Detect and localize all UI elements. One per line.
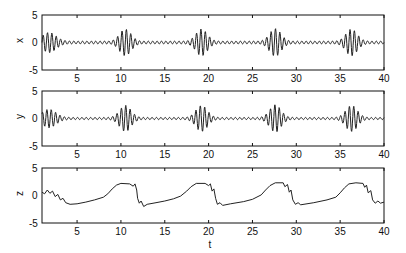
xtick-label: 20 [203, 149, 215, 160]
ylabel-y: y [14, 114, 25, 119]
xtick-label: 5 [74, 226, 80, 237]
ytick-0: 0 [32, 190, 38, 201]
series-z [42, 183, 384, 207]
ylabel-z: z [14, 191, 25, 196]
figure: x 5 0 -5 510152025303540 y 5 0 -5 510152… [0, 0, 406, 253]
xtick-label: 40 [378, 226, 390, 237]
xtick-label: 30 [291, 73, 303, 84]
ytick-5: 5 [32, 10, 38, 21]
ytick-0: 0 [32, 37, 38, 48]
xtick-label: 5 [74, 73, 80, 84]
series-x [42, 29, 384, 56]
xtick-label: 15 [159, 73, 171, 84]
xticks-z: 510152025303540 [74, 168, 390, 237]
xtick-label: 30 [291, 226, 303, 237]
panel-z: z 5 0 -5 510152025303540 t [14, 163, 390, 250]
panel-x: x 5 0 -5 510152025303540 [14, 10, 390, 84]
xtick-label: 15 [159, 149, 171, 160]
axes-box-z [42, 168, 384, 223]
panel-y: y 5 0 -5 510152025303540 [14, 86, 390, 160]
xtick-label: 35 [335, 73, 347, 84]
ytick-0: 0 [32, 113, 38, 124]
xtick-label: 35 [335, 226, 347, 237]
series-y [42, 105, 384, 132]
xtick-label: 20 [203, 73, 215, 84]
xtick-label: 40 [378, 73, 390, 84]
xtick-label: 25 [247, 149, 259, 160]
xtick-label: 40 [378, 149, 390, 160]
ytick-5: 5 [32, 163, 38, 174]
xtick-label: 10 [115, 73, 127, 84]
xtick-label: 30 [291, 149, 303, 160]
ytick-neg5: -5 [29, 65, 38, 76]
ylabel-x: x [14, 38, 25, 43]
xtick-label: 10 [115, 149, 127, 160]
xticks-y: 510152025303540 [74, 91, 390, 160]
xtick-label: 10 [115, 226, 127, 237]
xtick-label: 15 [159, 226, 171, 237]
xtick-label: 25 [247, 226, 259, 237]
ytick-neg5: -5 [29, 218, 38, 229]
xlabel-t: t [209, 239, 212, 250]
xticks-x: 510152025303540 [74, 15, 390, 84]
xtick-label: 5 [74, 149, 80, 160]
xtick-label: 35 [335, 149, 347, 160]
ytick-neg5: -5 [29, 141, 38, 152]
xtick-label: 25 [247, 73, 259, 84]
xtick-label: 20 [203, 226, 215, 237]
ytick-5: 5 [32, 86, 38, 97]
